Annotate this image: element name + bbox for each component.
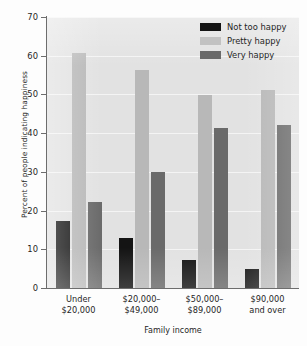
y-axis-tick [41, 249, 46, 250]
x-axis-tick-label-line: $49,000 [110, 305, 173, 316]
x-axis-tick-label-line: $89,000 [173, 305, 236, 316]
y-axis-tick-label: 30 [0, 167, 38, 177]
legend-item: Not too happy [200, 20, 287, 34]
bar [214, 128, 228, 288]
bar [182, 260, 196, 288]
bar [261, 90, 275, 288]
legend-item: Very happy [200, 48, 287, 62]
x-axis-tick-label-line: $50,000– [173, 294, 236, 305]
bar [56, 221, 70, 288]
y-axis-tick-label: 60 [0, 51, 38, 61]
bar [135, 70, 149, 288]
y-axis-tick [41, 94, 46, 95]
x-axis-tick-label-line: Under [47, 294, 110, 305]
chart-figure: Percent of people indicating happiness 0… [0, 0, 307, 346]
chart-legend: Not too happyPretty happyVery happy [200, 20, 287, 62]
y-axis-tick [41, 172, 46, 173]
y-axis-tick [41, 17, 46, 18]
bar [88, 202, 102, 288]
y-axis-tick-label: 0 [0, 283, 38, 293]
x-axis-tick-label-line: $90,000 [236, 294, 299, 305]
y-axis-tick-label: 20 [0, 206, 38, 216]
y-axis-tick [41, 288, 46, 289]
bar [72, 53, 86, 288]
x-axis-tick-label: Under$20,000 [47, 294, 110, 315]
x-axis-tick-label: $20,000–$49,000 [110, 294, 173, 315]
bar [277, 125, 291, 288]
x-axis-tick-label-line: $20,000– [110, 294, 173, 305]
x-axis-tick-label-line: $20,000 [47, 305, 110, 316]
legend-swatch-icon [200, 37, 221, 45]
bar-group [47, 17, 110, 288]
x-axis-tick-label: $50,000–$89,000 [173, 294, 236, 315]
x-axis-title: Family income [47, 326, 299, 335]
bar [151, 172, 165, 288]
legend-swatch-icon [200, 23, 221, 31]
y-axis-tick [41, 133, 46, 134]
y-axis-tick-label: 40 [0, 128, 38, 138]
bar [119, 238, 133, 288]
y-axis-tick-label: 10 [0, 244, 38, 254]
x-axis-tick-label: $90,000and over [236, 294, 299, 315]
bar [245, 269, 259, 288]
bar [198, 95, 212, 288]
x-axis-tick-label-line: and over [236, 305, 299, 316]
legend-label: Pretty happy [227, 36, 281, 46]
legend-label: Not too happy [227, 22, 287, 32]
bar-group [110, 17, 173, 288]
y-axis-tick-label: 70 [0, 12, 38, 22]
y-axis-tick [41, 211, 46, 212]
legend-swatch-icon [200, 51, 221, 59]
legend-item: Pretty happy [200, 34, 287, 48]
y-axis-tick-label: 50 [0, 89, 38, 99]
legend-label: Very happy [227, 50, 274, 60]
y-axis-tick [41, 56, 46, 57]
x-axis-line [46, 288, 299, 289]
